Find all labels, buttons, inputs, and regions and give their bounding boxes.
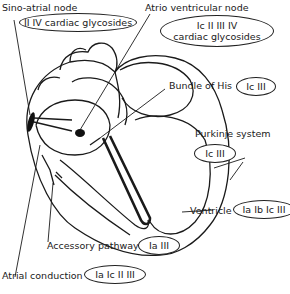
bundle-his-drugs-oval: Ic III bbox=[236, 77, 276, 96]
atrial-conduction-drugs-oval: Ia Ic II III bbox=[84, 265, 146, 284]
purkinje-drugs-oval: Ic III bbox=[194, 144, 236, 163]
atrial-conduction-label: Atrial conduction bbox=[2, 270, 83, 281]
ventricle-drugs: Ia Ib Ic III bbox=[243, 204, 286, 215]
bundle-his-drugs: Ic III bbox=[246, 81, 265, 92]
ventricle-label: Ventricle bbox=[190, 205, 232, 216]
av-node-label: Atrio ventricular node bbox=[145, 2, 249, 13]
atrial-conduction-drugs: Ia Ic II III bbox=[95, 269, 135, 280]
ventricle-drugs-oval: Ia Ib Ic III bbox=[233, 200, 290, 219]
av-node-drugs-line1: Ic II III IV bbox=[197, 20, 237, 31]
purkinje-label: Purkinje system bbox=[195, 128, 271, 139]
purkinje-drugs: Ic III bbox=[205, 148, 224, 159]
accessory-pathway-drugs-oval: Ia III bbox=[138, 236, 180, 255]
accessory-pathway-drugs: Ia III bbox=[149, 240, 169, 251]
sa-node-label: Sino-atrial node bbox=[2, 2, 77, 13]
bundle-his-label: Bundle of His bbox=[169, 80, 232, 91]
av-node-drugs-oval: Ic II III IV cardiac glycosides bbox=[160, 15, 274, 47]
av-node-drugs-line2: cardiac glycosides bbox=[173, 31, 260, 42]
sa-node-drugs: II IV cardiac glycosides bbox=[24, 17, 132, 28]
sa-node-drugs-oval: II IV cardiac glycosides bbox=[19, 13, 137, 32]
accessory-pathway-label: Accessory pathway bbox=[47, 240, 139, 251]
